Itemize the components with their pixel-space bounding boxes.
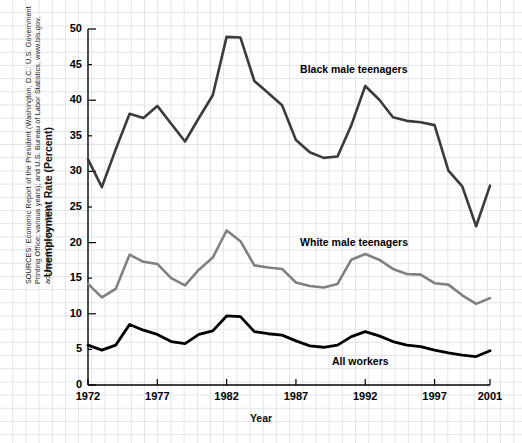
y-tick-label-15: 15 [52,272,82,283]
x-tick-label-1972: 1972 [65,391,111,402]
y-tick-label-30: 30 [52,165,82,176]
y-tick-label-45: 45 [52,59,82,70]
x-tick-label-1987: 1987 [273,391,319,402]
plot-area [88,29,490,385]
x-axis-title: Year [0,412,522,424]
series-label-black-male-teenagers: Black male teenagers [300,63,407,75]
x-tick-label-2001: 2001 [467,391,513,402]
y-tick-label-35: 35 [52,130,82,141]
y-tick-label-20: 20 [52,237,82,248]
y-tick-label-50: 50 [52,23,82,34]
x-tick-label-1982: 1982 [204,391,250,402]
y-tick-label-25: 25 [52,201,82,212]
x-tick-label-1997: 1997 [412,391,458,402]
y-tick-label-40: 40 [52,94,82,105]
x-tick-label-1992: 1992 [342,391,388,402]
chart-svg [88,29,490,385]
chart-figure: SOURCES: Economic Report of the Presiden… [0,0,522,443]
series-lines [88,37,490,357]
y-tick-label-0: 0 [52,379,82,390]
series-line-black-male-teenagers [88,37,490,226]
series-label-white-male-teenagers: White male teenagers [300,236,408,248]
y-tick-label-10: 10 [52,308,82,319]
y-tick-label-5: 5 [52,343,82,354]
y-axis-tick-labels: 05101520253035404550 [0,0,86,443]
series-label-all-workers: All workers [332,355,389,367]
series-line-white-male-teenagers [88,231,490,304]
series-line-all-workers [88,316,490,357]
x-tick-label-1977: 1977 [134,391,180,402]
